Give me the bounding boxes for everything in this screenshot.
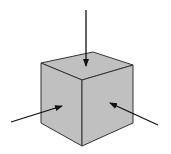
cube-diagram-canvas	[0, 0, 171, 154]
cube-diagram	[0, 0, 171, 154]
cube	[41, 52, 133, 146]
